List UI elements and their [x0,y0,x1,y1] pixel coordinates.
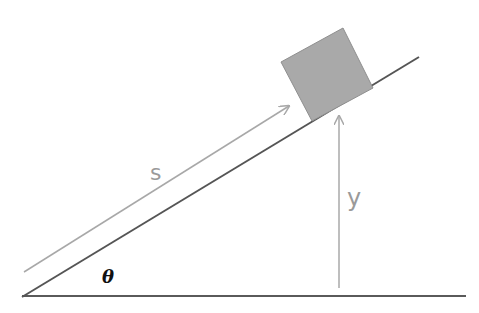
height-label: y [347,184,361,212]
block [281,28,373,121]
distance-label: s [150,160,161,185]
incline-diagram: s y θ [0,0,479,313]
distance-arrow [24,106,289,272]
angle-label: θ [102,266,114,287]
